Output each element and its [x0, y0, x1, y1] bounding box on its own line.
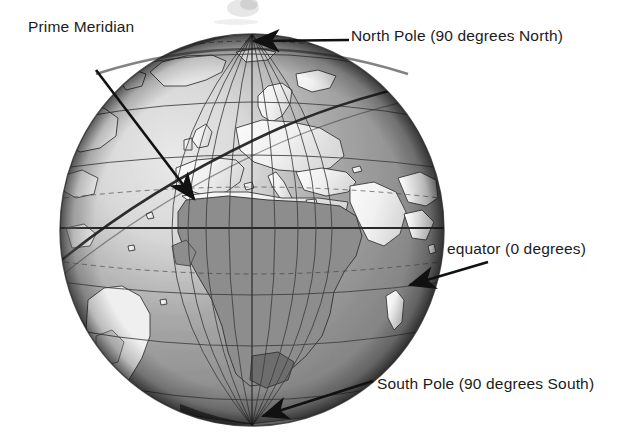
globe-diagram: Prime Meridian North Pole (90 degrees No…	[0, 0, 629, 437]
label-north-pole: North Pole (90 degrees North)	[351, 27, 563, 45]
north-pole-leader	[254, 40, 349, 41]
label-equator: equator (0 degrees)	[447, 240, 586, 258]
globe-illustration	[0, 0, 629, 437]
label-prime-meridian: Prime Meridian	[28, 18, 134, 36]
label-south-pole: South Pole (90 degrees South)	[377, 375, 594, 393]
globe-sphere	[52, 34, 450, 432]
background-smudge	[214, 0, 259, 25]
